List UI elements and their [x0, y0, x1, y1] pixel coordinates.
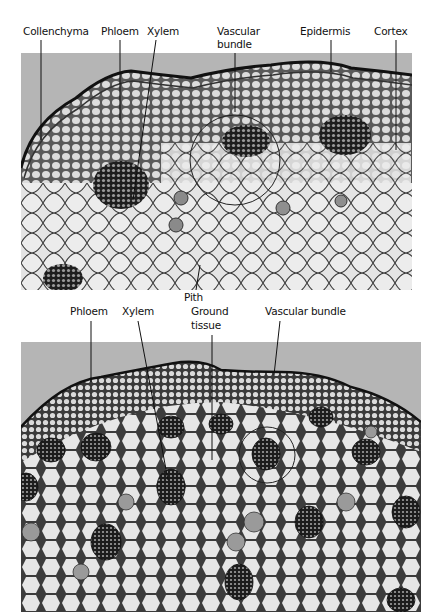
label-phloem-bottom: Phloem — [70, 305, 108, 318]
label-vascular-bundle-bottom: Vascular bundle — [265, 305, 346, 318]
label-ground-tissue-line1: Ground — [191, 305, 228, 318]
label-xylem-bottom: Xylem — [122, 305, 154, 318]
monocot-stem-micrograph — [21, 342, 421, 612]
label-pith: Pith — [184, 291, 203, 304]
label-ground-tissue-line2: tissue — [191, 319, 221, 332]
